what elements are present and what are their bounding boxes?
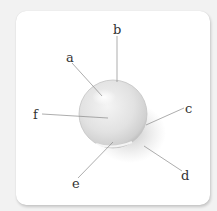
label-b: b: [113, 23, 121, 36]
label-a: a: [66, 51, 74, 64]
label-e: e: [72, 177, 80, 190]
label-f: f: [33, 108, 38, 121]
droplet: [79, 80, 147, 148]
label-c: c: [185, 102, 192, 115]
label-d: d: [181, 169, 189, 182]
droplet-highlight: [92, 89, 116, 105]
